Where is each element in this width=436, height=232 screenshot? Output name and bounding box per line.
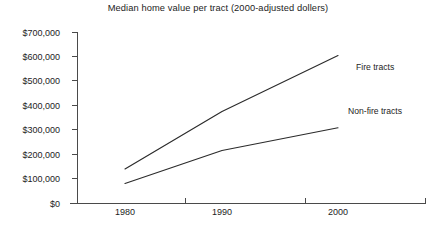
x-tick-label: 1990 — [212, 207, 232, 217]
y-tick-label: $200,000 — [22, 150, 60, 160]
series-label-non-fire-tracts: Non-fire tracts — [348, 106, 402, 116]
chart-container: Median home value per tract (2000-adjust… — [0, 0, 436, 232]
y-tick-label: $400,000 — [22, 101, 60, 111]
series-line-fire-tracts — [125, 56, 338, 169]
y-tick-label: $0 — [50, 199, 60, 209]
x-axis-line — [70, 198, 426, 204]
x-tick-label: 1980 — [115, 207, 135, 217]
chart-plot-area: $700,000 $600,000 $500,000 $400,000 $300… — [0, 0, 436, 232]
y-tick-label: $700,000 — [22, 28, 60, 38]
y-tick-label: $100,000 — [22, 174, 60, 184]
series-label-fire-tracts: Fire tracts — [356, 62, 394, 72]
y-tick-label: $500,000 — [22, 76, 60, 86]
series-line-non-fire-tracts — [125, 128, 338, 184]
y-axis-tick-labels: $700,000 $600,000 $500,000 $400,000 $300… — [22, 28, 60, 209]
y-tick-label: $300,000 — [22, 125, 60, 135]
x-axis-ticks — [186, 198, 306, 204]
x-tick-label: 2000 — [328, 207, 348, 217]
y-tick-label: $600,000 — [22, 52, 60, 62]
y-axis-ticks — [70, 32, 78, 203]
x-axis-tick-labels: 1980 1990 2000 — [115, 207, 348, 217]
